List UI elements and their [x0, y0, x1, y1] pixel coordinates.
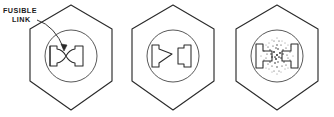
hexagon-body-2 [132, 5, 214, 110]
figure-canvas: FUSIBLE LINK [0, 0, 334, 117]
leader-line [37, 20, 64, 49]
panel-3-vaporized-fuse [236, 5, 318, 110]
hexagon-body-3 [236, 5, 318, 110]
panel-2-blown-fuse [132, 5, 214, 110]
fusible-link-label-line-1: FUSIBLE [3, 6, 37, 15]
fuse-window-circle-1 [45, 30, 97, 82]
fuse-element-vaporized-right [282, 44, 298, 68]
fuse-condition-figure: FUSIBLE LINK [0, 0, 334, 117]
fuse-element-intact [50, 46, 83, 66]
hexagon-body-1 [30, 5, 112, 110]
panel-1-intact-fuse [30, 5, 112, 110]
fuse-element-vaporized-left [256, 44, 272, 68]
leader-arrowhead-icon [61, 44, 67, 51]
fuse-element-broken-left [152, 45, 172, 67]
fusible-link-label-line-2: LINK [12, 15, 31, 24]
fuse-element-broken-right [178, 45, 191, 67]
vaporization-particles [261, 38, 294, 75]
